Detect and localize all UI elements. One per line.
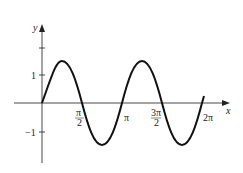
y-axis-arrow-icon [39, 24, 45, 32]
y-tick-label-1: 1 [31, 70, 36, 81]
y-axis-label: y [32, 22, 38, 33]
x-tick-label-pi: π [124, 112, 129, 123]
x-tick-label-2pi: 2π [203, 112, 213, 123]
y-tick-label-neg1: −1 [25, 127, 36, 138]
x-tick-label-pi-half-den: 2 [77, 117, 82, 128]
x-axis-label: x [225, 105, 231, 116]
sine-chart: y x 1 −1 π 2 π 3π 2 2π [0, 0, 243, 173]
x-tick-label-3pi-half-den: 2 [154, 117, 159, 128]
curve-end [202, 96, 204, 103]
